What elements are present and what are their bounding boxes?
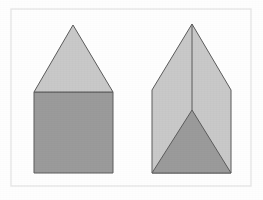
- figure-canvas: [0, 0, 263, 200]
- square-body: [34, 92, 113, 173]
- figure-root: [0, 0, 263, 200]
